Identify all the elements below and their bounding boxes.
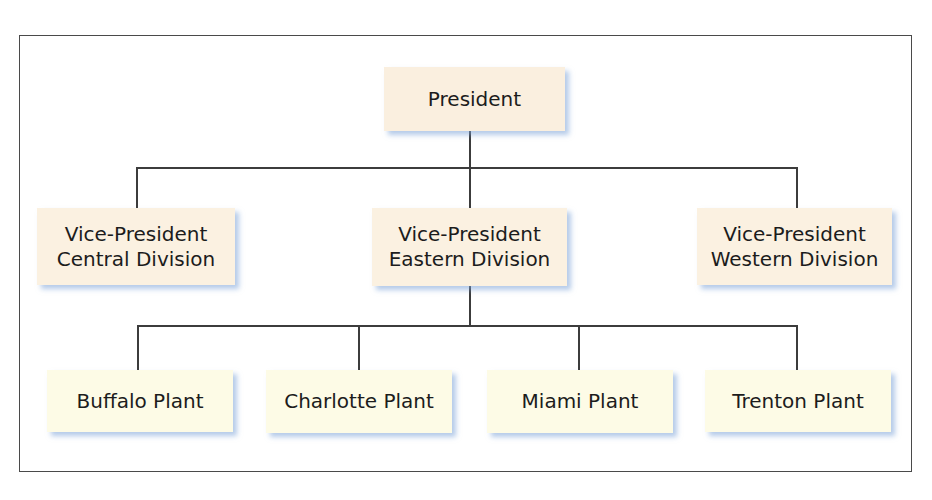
node-plant-buffalo: Buffalo Plant bbox=[47, 370, 233, 432]
node-plant-trenton: Trenton Plant bbox=[705, 370, 891, 432]
node-label: Miami Plant bbox=[522, 389, 639, 414]
node-vp-central: Vice-President Central Division bbox=[37, 208, 235, 285]
connector-plant-charlotte bbox=[358, 325, 360, 370]
connector-plant-miami bbox=[578, 325, 580, 370]
node-label-line1: Vice-President bbox=[65, 222, 208, 247]
connector-vp-western bbox=[796, 167, 798, 208]
node-label-line2: Central Division bbox=[57, 247, 215, 272]
node-label: Trenton Plant bbox=[732, 389, 864, 414]
node-label: Buffalo Plant bbox=[77, 389, 204, 414]
node-vp-western: Vice-President Western Division bbox=[697, 208, 892, 285]
connector-vp-eastern bbox=[469, 167, 471, 208]
node-label-line1: Vice-President bbox=[398, 222, 541, 247]
node-plant-charlotte: Charlotte Plant bbox=[266, 370, 452, 433]
connector-president-down bbox=[469, 131, 471, 168]
connector-vp-horizontal bbox=[136, 167, 797, 169]
node-label-line1: Vice-President bbox=[723, 222, 866, 247]
connector-plant-horizontal bbox=[137, 325, 798, 327]
node-president: President bbox=[384, 67, 565, 131]
connector-plant-buffalo bbox=[137, 325, 139, 370]
node-label: President bbox=[428, 87, 521, 112]
node-label: Charlotte Plant bbox=[284, 389, 434, 414]
connector-eastern-down bbox=[469, 286, 471, 326]
node-label-line2: Western Division bbox=[711, 247, 879, 272]
connector-vp-central bbox=[136, 167, 138, 208]
connector-plant-trenton bbox=[796, 325, 798, 370]
node-plant-miami: Miami Plant bbox=[487, 370, 673, 433]
node-vp-eastern: Vice-President Eastern Division bbox=[372, 208, 567, 286]
node-label-line2: Eastern Division bbox=[389, 247, 551, 272]
